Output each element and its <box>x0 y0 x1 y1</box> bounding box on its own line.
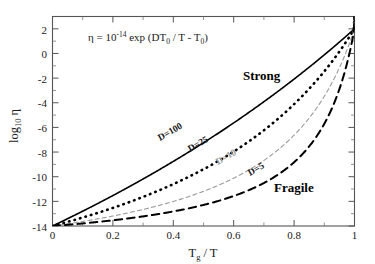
y-tick-label-8: -14 <box>32 221 47 233</box>
fragile-region-label: Fragile <box>274 180 314 195</box>
x-tick-label-2: 0.4 <box>166 229 180 241</box>
x-axis-title-rest: / T <box>204 246 218 260</box>
y-tick-label-5: -8 <box>38 147 48 159</box>
y-tick-label-7: -12 <box>32 196 47 208</box>
curve-label-d10: D=10 <box>214 147 238 167</box>
y-tick-label-0: 2 <box>42 24 48 36</box>
curve-label-d100-group: D=100 <box>156 121 184 143</box>
x-tick-label-5: 1 <box>352 229 358 241</box>
curve-label-d5: D=5 <box>246 160 266 177</box>
y-tick-label-1: 0 <box>42 48 48 60</box>
equation-mid: / T - T <box>173 31 201 43</box>
svg-text:log10 η: log10 η <box>7 109 23 143</box>
y-axis-title: log10 η <box>7 109 23 143</box>
strong-region-label: Strong <box>243 68 281 83</box>
curve-label-d25-group: D=25 <box>186 134 210 154</box>
y-tick-label-3: -4 <box>38 97 48 109</box>
curve-label-d25: D=25 <box>186 134 210 154</box>
x-tick-label-1: 0.2 <box>106 229 120 241</box>
equation-exp-fn: exp (DT <box>129 31 166 44</box>
equation-annotation: η = 10-14 exp (DT0 / T - T0) <box>88 30 208 46</box>
x-tick-label-3: 0.6 <box>227 229 241 241</box>
x-tick-label-4: 0.8 <box>287 229 301 241</box>
y-tick-label-2: -2 <box>38 73 47 85</box>
x-axis-title: Tg / T <box>188 246 217 262</box>
curve-label-d5-group: D=5 <box>246 160 266 177</box>
equation-exponent: -14 <box>116 30 126 39</box>
y-tick-label-4: -6 <box>38 122 48 134</box>
y-axis-title-eta: η <box>7 109 21 116</box>
equation-base: 10 <box>105 31 117 43</box>
chart-page: 0 0.2 0.4 0.6 0.8 1 2 0 -2 -4 -6 -8 -10 … <box>0 0 375 264</box>
y-tick-label-6: -10 <box>32 171 47 183</box>
equation-close: ) <box>204 31 208 44</box>
y-axis-title-sub: 10 <box>13 119 23 128</box>
viscosity-chart: 0 0.2 0.4 0.6 0.8 1 2 0 -2 -4 -6 -8 -10 … <box>0 0 375 264</box>
y-axis-title-main: log <box>7 126 21 143</box>
x-tick-label-0: 0 <box>50 229 56 241</box>
curve-label-d100: D=100 <box>156 121 184 143</box>
curve-label-d10-group: D=10 <box>214 147 238 167</box>
